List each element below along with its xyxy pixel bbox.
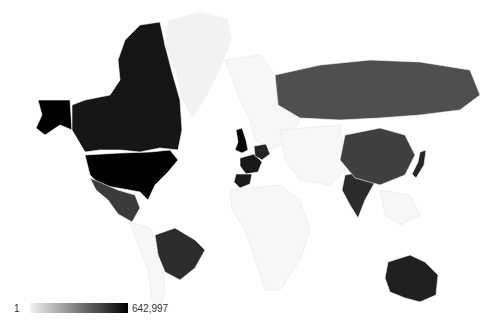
color-legend: 1 642,997 bbox=[14, 301, 168, 315]
legend-min-label: 1 bbox=[14, 303, 30, 314]
world-map: United States: 642,997United Kingdom: 48… bbox=[0, 0, 497, 335]
region-no-data[interactable] bbox=[280, 125, 345, 185]
legend-gradient-bar bbox=[30, 303, 128, 313]
region-spain[interactable]: Spain: 150,000 bbox=[234, 174, 252, 188]
region-no-data[interactable] bbox=[380, 190, 420, 225]
region-united-kingdom[interactable]: United Kingdom: 480,000 bbox=[235, 128, 248, 153]
legend-max-label: 642,997 bbox=[132, 303, 168, 314]
region-russia[interactable]: Russia: 8,000 bbox=[275, 60, 480, 120]
region-australia[interactable]: Australia: 110,000 bbox=[385, 255, 438, 302]
region-no-data[interactable] bbox=[230, 185, 310, 290]
